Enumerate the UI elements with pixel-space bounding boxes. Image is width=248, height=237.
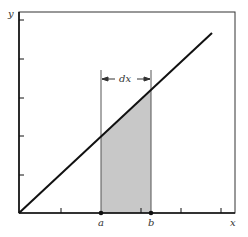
shaded-area [101, 90, 151, 213]
dx-label: dx [119, 73, 131, 84]
point-b-marker [149, 211, 154, 216]
point-b-label: b [148, 217, 154, 228]
x-axis-label: x [230, 217, 236, 228]
point-a-marker [99, 211, 104, 216]
y-axis-label: y [7, 8, 14, 19]
integral-diagram: dx a b y x [0, 0, 248, 237]
point-a-label: a [98, 217, 104, 228]
